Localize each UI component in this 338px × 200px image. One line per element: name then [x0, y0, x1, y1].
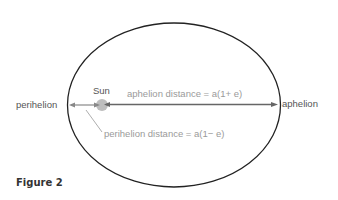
figure-caption: Figure 2 [16, 177, 63, 188]
aphelion-label: aphelion [282, 99, 318, 109]
perihelion-distance-label: perihelion distance = a(1− e) [104, 129, 224, 139]
leader-line [86, 110, 102, 132]
aphelion-distance-label: aphelion distance = a(1+ e) [127, 89, 242, 99]
sun-label: Sun [93, 86, 110, 96]
perihelion-label: perihelion [16, 100, 57, 110]
